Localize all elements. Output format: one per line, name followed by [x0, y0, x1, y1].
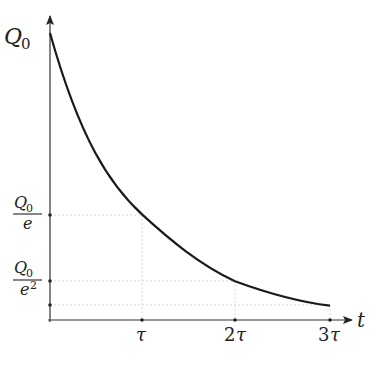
x-tick-3tau: 3 τ: [318, 324, 341, 345]
tick-marks: [48, 213, 332, 322]
y-label-q0: Q 0: [4, 24, 31, 53]
svg-text:0: 0: [21, 35, 31, 53]
y-label-q0-over-e2: Q 0 e 2: [13, 258, 42, 299]
x-tick-tau: τ: [136, 324, 147, 345]
svg-text:τ: τ: [236, 324, 247, 345]
svg-text:τ: τ: [330, 324, 341, 345]
svg-text:2: 2: [224, 324, 235, 345]
svg-text:e: e: [23, 214, 32, 233]
x-axis-label-t: t: [357, 308, 366, 332]
svg-text:3: 3: [318, 324, 329, 345]
svg-text:2: 2: [30, 279, 37, 292]
grid-lines: [50, 215, 330, 320]
y-label-q0-over-e: Q 0 e: [13, 193, 42, 233]
svg-text:e: e: [20, 280, 29, 299]
decay-chart: Q 0 Q 0 e Q 0 e 2 t τ 2 τ 3 τ: [0, 0, 380, 368]
x-tick-2tau: 2 τ: [224, 324, 247, 345]
decay-curve: [50, 33, 330, 306]
svg-text:Q: Q: [4, 24, 22, 49]
